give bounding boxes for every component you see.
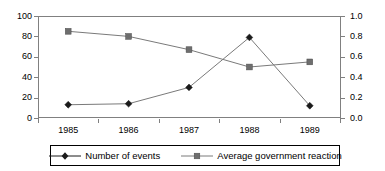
left-axis-tick <box>34 57 38 58</box>
x-axis-tick <box>219 119 220 123</box>
legend-entry-number-of-events: Number of events <box>48 151 160 161</box>
x-axis-tick <box>159 119 160 123</box>
left-axis-tick <box>34 16 38 17</box>
x-axis-tick-label: 1989 <box>290 126 330 135</box>
plot-area <box>38 16 340 118</box>
left-axis-tick-label: 100 <box>2 12 32 21</box>
x-axis-tick-label: 1986 <box>109 126 149 135</box>
left-axis-tick <box>34 77 38 78</box>
right-axis-tick-label: 0.0 <box>350 114 382 123</box>
left-axis-tick <box>34 36 38 37</box>
right-axis-tick-label: 0.4 <box>350 73 382 82</box>
square-marker-icon <box>180 151 214 161</box>
left-axis-tick-label: 40 <box>2 73 32 82</box>
right-axis-tick <box>341 98 345 99</box>
left-axis-tick-label: 80 <box>2 32 32 41</box>
x-axis-tick <box>38 119 39 123</box>
left-axis-tick-label: 20 <box>2 93 32 102</box>
left-axis-tick <box>34 98 38 99</box>
right-axis-tick-label: 0.6 <box>350 52 382 61</box>
legend-label-number-of-events: Number of events <box>85 151 160 161</box>
x-axis-tick <box>280 119 281 123</box>
x-axis-tick-label: 1988 <box>229 126 269 135</box>
x-axis-tick-label: 1985 <box>48 126 88 135</box>
right-axis-tick <box>341 77 345 78</box>
line-chart: 0204060801000.00.20.40.60.81.01985198619… <box>0 0 385 171</box>
left-axis-tick-label: 60 <box>2 52 32 61</box>
right-axis-line <box>340 16 341 119</box>
x-axis-tick-label: 1987 <box>169 126 209 135</box>
right-axis-tick <box>341 118 345 119</box>
right-axis-tick-label: 0.2 <box>350 93 382 102</box>
x-axis-tick <box>98 119 99 123</box>
legend: Number of events Average government reac… <box>50 145 340 166</box>
legend-entry-average-government-reaction: Average government reaction <box>180 151 341 161</box>
left-axis-tick-label: 0 <box>2 114 32 123</box>
right-axis-tick <box>341 16 345 17</box>
left-axis-line <box>38 16 39 119</box>
right-axis-tick-label: 1.0 <box>350 12 382 21</box>
right-axis-tick-label: 0.8 <box>350 32 382 41</box>
right-axis-tick <box>341 57 345 58</box>
right-axis-tick <box>341 36 345 37</box>
legend-label-average-government-reaction: Average government reaction <box>217 151 341 161</box>
x-axis-tick <box>340 119 341 123</box>
diamond-marker-icon <box>48 151 82 161</box>
